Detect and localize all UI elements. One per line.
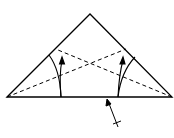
triangle-outline <box>7 14 172 97</box>
flip-reference-arrow <box>106 99 121 127</box>
origami-diagram <box>0 0 174 138</box>
